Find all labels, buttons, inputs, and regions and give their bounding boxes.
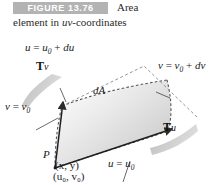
figure-page: FIGURE 13.76 Area element in uv-coordina…	[0, 0, 224, 185]
caption-suffix: -coordinates	[72, 16, 126, 28]
label-u-diff: du	[63, 41, 74, 53]
label-v-eq: =	[166, 59, 172, 71]
label-v-diff: dv	[195, 59, 205, 71]
leader-line-u0-plus-du	[60, 88, 66, 102]
label-v-sub: 0	[180, 65, 184, 74]
label-u-var: u	[25, 41, 31, 53]
label-v-plus: +	[186, 59, 195, 71]
label-tangent-vector-Tu: Tu	[163, 120, 176, 135]
label-Tu-symbol: T	[163, 120, 171, 134]
label-u-plus: +	[54, 41, 63, 53]
figure-number-badge: FIGURE 13.76	[13, 2, 108, 14]
area-element-patch	[55, 80, 171, 168]
caption-line-2: element in uv-coordinates	[13, 16, 127, 28]
caption-prefix: element in	[13, 16, 62, 28]
label-u0-sub: 0	[131, 163, 135, 172]
label-u-equals-u0-plus-du: u = u0 + du	[25, 41, 74, 56]
caption-italic-vars: uv	[62, 16, 72, 28]
caption-line-1: Area	[117, 1, 138, 13]
figure-caption: FIGURE 13.76 Area element in uv-coordina…	[0, 0, 224, 32]
label-point-uv-coords: (u₀, v₀)	[53, 170, 85, 182]
label-v0-sub: 0	[27, 106, 31, 115]
label-Tv-symbol: T	[36, 59, 44, 73]
label-u0-eq: =	[116, 157, 122, 169]
label-area-element-dA: dA	[93, 84, 105, 96]
leader-line-v0	[36, 118, 58, 130]
label-v0-eq: =	[13, 100, 19, 112]
label-tangent-vector-Tv: Tv	[36, 59, 48, 74]
label-v-equals-v0: v = v0	[5, 100, 30, 115]
label-Tu-sub: u	[171, 122, 176, 133]
label-u-eq: =	[33, 41, 39, 53]
label-u-sub: 0	[48, 47, 52, 56]
label-point-P: P	[43, 148, 50, 160]
label-u-equals-u0: u = u0	[108, 157, 134, 172]
label-v-equals-v0-plus-dv: v = v0 + dv	[158, 59, 205, 74]
label-u0-var: u	[108, 157, 114, 169]
label-Tv-sub: v	[44, 61, 48, 72]
